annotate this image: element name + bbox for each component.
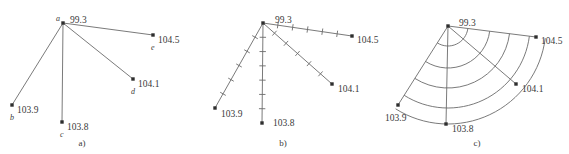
edge-a-d [63,23,133,79]
node-value-b-c: 103.8 [273,118,295,128]
node-label-a-d: d [131,87,136,96]
node-point-b-c[interactable] [260,121,263,124]
node-point-b-d[interactable] [330,82,333,85]
node-point-c-c[interactable] [444,122,447,125]
node-point-c-b[interactable] [396,103,399,106]
edge-a-b [398,26,448,105]
node-value-a-b: 103.9 [17,105,39,115]
node-point-c-d[interactable] [514,82,517,85]
node-point-a-e[interactable] [151,33,154,36]
edge-a-c [446,26,448,124]
tick-mark [228,78,234,81]
node-value-b-d: 104.1 [338,84,360,94]
panel-b: 99.3103.9103.8104.1104.5b) [213,15,378,149]
distance-arc-4 [404,36,529,108]
edge-a-d [448,26,516,84]
panel-c: 99.3103.9103.8104.1104.5c) [385,18,563,149]
edge-a-c [262,23,263,123]
tick-mark [252,36,258,39]
distance-arc-5 [396,38,546,124]
node-point-c-a[interactable] [446,24,449,27]
node-value-c-a: 99.3 [459,18,476,28]
panel-a: 99.3a103.9b103.8c104.1d104.5ea) [10,14,180,148]
node-label-a-c: c [60,130,64,139]
node-point-c-e[interactable] [534,35,537,38]
node-value-b-b: 103.9 [221,109,243,119]
edge-a-e [448,26,536,37]
node-point-b-b[interactable] [213,106,216,109]
node-value-b-e: 104.5 [357,35,379,45]
tick-mark [292,24,293,30]
node-point-b-a[interactable] [261,21,264,24]
edge-a-c [62,23,63,122]
tick-mark [307,26,308,32]
node-value-c-e: 104.5 [541,36,563,46]
node-value-c-b: 103.9 [385,113,407,123]
panel-caption-b: b) [279,138,287,148]
panel-caption-c: c) [474,138,481,148]
distance-arc-2 [426,31,490,68]
node-point-a-c[interactable] [60,120,63,123]
figure-svg: 99.3a103.9b103.8c104.1d104.5ea)99.3103.9… [0,0,569,154]
tick-mark [236,64,242,67]
node-label-a-e: e [151,43,155,52]
node-point-b-e[interactable] [350,34,353,37]
node-point-a-a[interactable] [61,21,64,24]
node-value-a-d: 104.1 [138,79,160,89]
tick-mark [322,29,323,35]
edge-a-e [63,23,153,35]
node-value-b-a: 99.3 [275,15,292,25]
node-value-a-c: 103.8 [67,122,89,132]
distance-arc-3 [415,34,510,88]
figure-container: 99.3a103.9b103.8c104.1d104.5ea)99.3103.9… [0,0,569,154]
node-label-a-b: b [10,113,14,122]
tick-mark [337,31,338,37]
tick-mark [220,92,226,95]
panel-caption-a: a) [79,138,86,148]
tick-mark [244,50,250,53]
node-value-c-d: 104.1 [522,84,544,94]
node-value-a-e: 104.5 [158,35,180,45]
distance-arc-1 [437,28,468,46]
node-value-c-c: 103.8 [452,124,474,134]
edge-a-b [12,23,63,105]
node-value-a-a: 99.3 [70,15,87,25]
node-point-a-d[interactable] [131,77,134,80]
node-point-a-b[interactable] [10,103,13,106]
node-label-a-a: a [56,14,60,23]
